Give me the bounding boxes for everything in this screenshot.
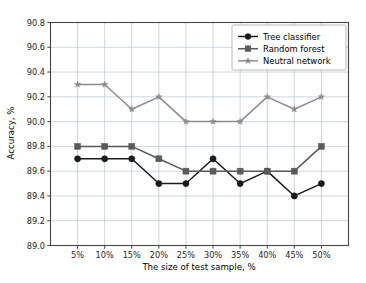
x-tick-label: 10%	[96, 250, 114, 260]
y-tick-label: 89.2	[27, 216, 45, 226]
y-tick-label: 90.4	[27, 67, 45, 77]
marker-circle	[156, 180, 162, 186]
x-tick-label: 5%	[71, 250, 84, 260]
marker-circle	[245, 34, 251, 40]
marker-circle	[291, 193, 297, 199]
chart-legend: Tree classifierRandom forestNeutral netw…	[232, 25, 346, 70]
marker-square	[183, 168, 189, 174]
marker-circle	[129, 156, 135, 162]
chart-figure: 89.089.289.489.689.890.090.290.490.690.8…	[0, 0, 366, 283]
marker-circle	[183, 180, 189, 186]
x-tick-label: 30%	[204, 250, 222, 260]
y-tick-label: 89.8	[27, 141, 45, 151]
x-tick-label: 40%	[258, 250, 276, 260]
marker-circle	[318, 180, 324, 186]
marker-square	[264, 168, 270, 174]
marker-square	[129, 143, 135, 149]
x-tick-label: 20%	[150, 250, 168, 260]
y-tick-label: 89.4	[27, 191, 45, 201]
marker-square	[210, 168, 216, 174]
marker-circle	[102, 156, 108, 162]
marker-square	[102, 143, 108, 149]
marker-square	[156, 156, 162, 162]
marker-circle	[210, 156, 216, 162]
marker-square	[291, 168, 297, 174]
x-tick-label: 25%	[177, 250, 195, 260]
y-tick-label: 89.6	[27, 166, 45, 176]
legend-entry-label: Tree classifier	[262, 32, 321, 42]
marker-square	[237, 168, 243, 174]
y-tick-label: 89.0	[27, 241, 45, 251]
y-axis-title: Accuracy, %	[6, 107, 16, 160]
y-tick-label: 90.8	[27, 18, 45, 28]
x-tick-label: 45%	[285, 250, 303, 260]
marker-square	[245, 46, 251, 52]
x-tick-label: 50%	[312, 250, 330, 260]
marker-square	[75, 143, 81, 149]
marker-square	[318, 143, 324, 149]
marker-circle	[74, 156, 80, 162]
x-tick-label: 15%	[123, 250, 141, 260]
y-tick-label: 90.6	[27, 42, 45, 52]
legend-entry-label: Neutral network	[263, 56, 331, 66]
x-axis-title: The size of test sample, %	[141, 262, 255, 272]
line-chart: 89.089.289.489.689.890.090.290.490.690.8…	[0, 0, 366, 283]
y-tick-label: 90.2	[27, 92, 45, 102]
marker-circle	[237, 180, 243, 186]
y-tick-label: 90.0	[27, 117, 45, 127]
legend-entry-label: Random forest	[263, 44, 325, 54]
x-tick-label: 35%	[231, 250, 249, 260]
